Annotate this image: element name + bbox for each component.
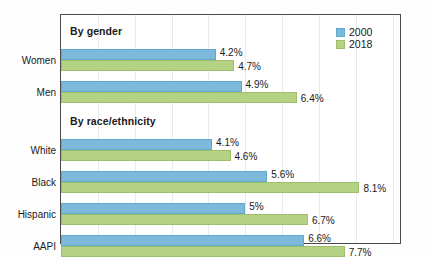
category-label-white: White [30,145,56,156]
bar-value-hispanic-2000: 5% [249,201,263,212]
bar-value-aapi-2000: 6.6% [308,233,331,244]
section-header-2: By race/ethnicity [70,115,156,127]
bar-value-black-2018: 8.1% [363,183,386,194]
bar-aapi-2018 [61,246,345,257]
gridline [319,15,320,243]
bar-women-2000 [61,49,216,60]
bar-value-women-2000: 4.2% [220,47,243,58]
bar-value-men-2018: 6.4% [301,93,324,104]
gridline [245,15,246,243]
bar-hispanic-2018 [61,214,308,225]
bar-black-2018 [61,182,359,193]
legend-item-2018: 2018 [336,39,372,49]
bar-aapi-2000 [61,235,304,246]
bar-value-hispanic-2018: 6.7% [312,215,335,226]
bar-black-2000 [61,171,267,182]
bar-value-white-2018: 4.6% [235,151,258,162]
section-header-1: By gender [70,25,122,37]
legend-label-2018: 2018 [349,39,372,49]
gridline [393,15,394,243]
bar-chart-figure: By genderWomen4.2%4.7%Men4.9%6.4%By race… [0,0,433,259]
legend-swatch-2018 [336,40,345,49]
legend-swatch-2000 [336,28,345,37]
bar-value-aapi-2018: 7.7% [349,247,372,258]
bar-women-2018 [61,60,234,71]
bar-value-black-2000: 5.6% [271,169,294,180]
bar-men-2000 [61,81,242,92]
category-label-men: Men [37,87,56,98]
category-label-aapi: AAPI [33,241,56,252]
bar-hispanic-2000 [61,203,245,214]
legend-item-2000: 2000 [336,27,372,37]
chart-legend: 20002018 [336,27,372,49]
bar-white-2000 [61,139,212,150]
category-label-hispanic: Hispanic [18,209,56,220]
legend-label-2000: 2000 [349,27,372,37]
category-label-women: Women [22,55,56,66]
category-label-black: Black [32,177,56,188]
bar-value-men-2000: 4.9% [246,79,269,90]
bar-white-2018 [61,150,231,161]
bar-value-women-2018: 4.7% [238,61,261,72]
bar-men-2018 [61,92,297,103]
bar-value-white-2000: 4.1% [216,137,239,148]
gridline [282,15,283,243]
